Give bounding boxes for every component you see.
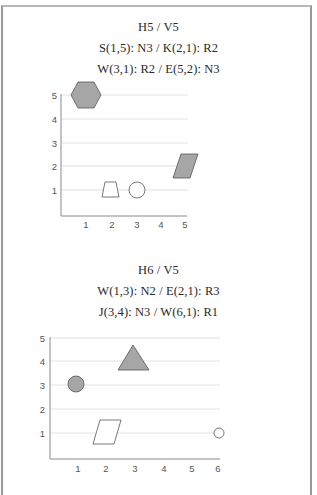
parallelogram-shape — [93, 420, 121, 444]
y-tick: 3 — [40, 380, 45, 391]
x-tick: 3 — [132, 463, 137, 474]
y-tick: 2 — [40, 404, 45, 415]
x-tick: 2 — [103, 463, 108, 474]
y-tick: 5 — [40, 333, 45, 344]
y-tick: 1 — [40, 428, 45, 439]
x-tick: 6 — [215, 463, 220, 474]
chart-2-y-ticks: 5 4 3 2 1 — [40, 333, 45, 439]
y-tick: 4 — [40, 356, 45, 367]
small-circle-shape — [214, 428, 224, 438]
x-tick: 4 — [161, 463, 166, 474]
x-tick: 1 — [75, 463, 80, 474]
circle-shape-filled — [68, 376, 84, 392]
chart-2-x-ticks: 1 2 3 4 5 6 — [75, 463, 220, 474]
x-tick: 5 — [189, 463, 194, 474]
triangle-shape — [118, 345, 149, 370]
